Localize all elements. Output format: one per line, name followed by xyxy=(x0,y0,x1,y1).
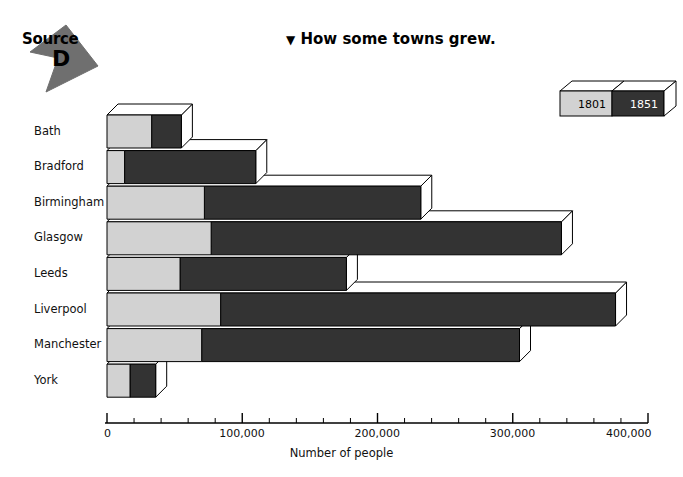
bar-front-1801 xyxy=(107,115,152,148)
bar-front-1801 xyxy=(107,186,204,219)
bar-front-1851 xyxy=(180,257,346,290)
bar-chart-svg xyxy=(0,0,683,477)
bar-front-1851 xyxy=(211,222,561,255)
bar-front-1851 xyxy=(204,186,420,219)
x-tick-label-400000: 400,000 xyxy=(606,427,652,440)
x-axis-title: Number of people xyxy=(0,446,683,460)
x-tick-label-300000: 300,000 xyxy=(490,427,536,440)
chart-page: Source D ▼ How some towns grew. 1801 185… xyxy=(0,0,683,477)
category-label-bradford: Bradford xyxy=(34,159,84,173)
bar-front-1801 xyxy=(107,364,130,397)
category-label-glasgow: Glasgow xyxy=(34,230,83,244)
category-label-manchester: Manchester xyxy=(34,337,101,351)
bar-front-1801 xyxy=(107,222,211,255)
bar-front-1801 xyxy=(107,151,125,184)
category-label-liverpool: Liverpool xyxy=(34,302,87,316)
x-tick-label-100000: 100,000 xyxy=(219,427,265,440)
bar-front-1851 xyxy=(221,293,616,326)
category-label-york: York xyxy=(34,373,58,387)
bar-front-1851 xyxy=(202,329,520,362)
bar-front-1851 xyxy=(125,151,256,184)
bar-front-1851 xyxy=(130,364,156,397)
chart-plot-area xyxy=(0,0,683,477)
category-label-leeds: Leeds xyxy=(34,266,68,280)
bar-top-face xyxy=(107,104,192,115)
bar-front-1801 xyxy=(107,329,202,362)
category-label-birmingham: Birmingham xyxy=(34,195,104,209)
category-label-bath: Bath xyxy=(34,124,61,138)
x-tick-label-200000: 200,000 xyxy=(355,427,401,440)
x-tick-label-0: 0 xyxy=(104,427,111,440)
bar-front-1851 xyxy=(152,115,182,148)
bar-group xyxy=(107,104,192,148)
bar-front-1801 xyxy=(107,293,221,326)
bar-front-1801 xyxy=(107,257,180,290)
